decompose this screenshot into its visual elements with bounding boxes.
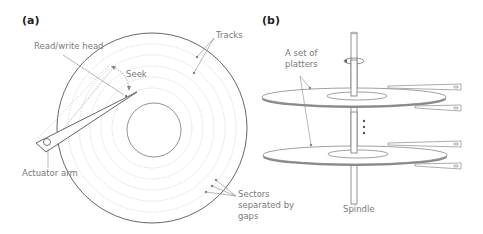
sectors-label-2: separated by — [238, 200, 294, 210]
actuator-arm-label: Actuator arm — [22, 168, 78, 178]
platters-leaders — [300, 76, 312, 146]
sectors-label-1: Sectors — [238, 189, 270, 199]
disk-hub — [127, 103, 181, 157]
track-4 — [101, 77, 203, 179]
read-write-head-leader — [63, 55, 124, 95]
disk-diagram: (a) — [0, 0, 483, 234]
tracks-label: Tracks — [215, 30, 243, 40]
panel-b-label: (b) — [262, 14, 280, 27]
actuator-pivot-icon — [44, 139, 51, 146]
tracks-leaders — [193, 38, 214, 74]
platters-label-2: platters — [285, 59, 318, 69]
platter-bottom — [263, 112, 447, 166]
spindle-label: Spindle — [343, 204, 375, 214]
track-1 — [68, 44, 236, 212]
sectors-label-3: gaps — [238, 211, 259, 221]
panel-a-label: (a) — [22, 14, 39, 27]
platters-label-1: A set of — [285, 48, 318, 58]
seek-label: Seek — [126, 69, 147, 79]
read-write-head-dot — [125, 95, 127, 97]
more-platters-ellipsis-icon — [363, 120, 365, 134]
disk-outer-edge — [57, 33, 247, 223]
disk-platter-top-view — [57, 33, 247, 223]
read-write-head-label: Read/write head — [34, 41, 104, 51]
